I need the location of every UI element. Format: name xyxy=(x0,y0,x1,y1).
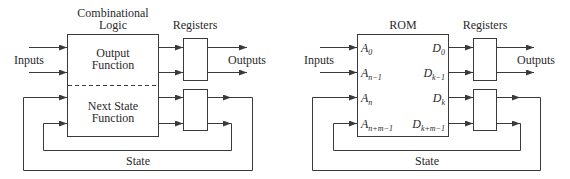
outputs-label: Outputs xyxy=(228,53,266,67)
inputs-label: Inputs xyxy=(304,53,334,67)
output-register xyxy=(184,39,208,81)
inputs-label: Inputs xyxy=(14,53,44,67)
rom-title: ROM xyxy=(389,18,417,32)
fsm-diagrams: Combinational Logic Registers Output Fun… xyxy=(0,0,570,179)
output-register xyxy=(474,39,497,81)
combinational-logic-diagram: Combinational Logic Registers Output Fun… xyxy=(14,6,266,171)
state-label: State xyxy=(415,154,439,168)
output-function-line2: Function xyxy=(92,58,135,72)
registers-label: Registers xyxy=(173,18,218,32)
rom-diagram: ROM Registers A0 An−1 An An+m−1 D0 Dk−1 … xyxy=(304,18,555,171)
registers-label: Registers xyxy=(463,18,508,32)
state-register xyxy=(474,90,497,131)
state-label: State xyxy=(126,154,150,168)
state-register xyxy=(184,90,208,131)
next-state-function-line2: Function xyxy=(92,111,135,125)
combinational-logic-title-line2: Logic xyxy=(99,18,127,32)
outputs-label: Outputs xyxy=(517,53,555,67)
